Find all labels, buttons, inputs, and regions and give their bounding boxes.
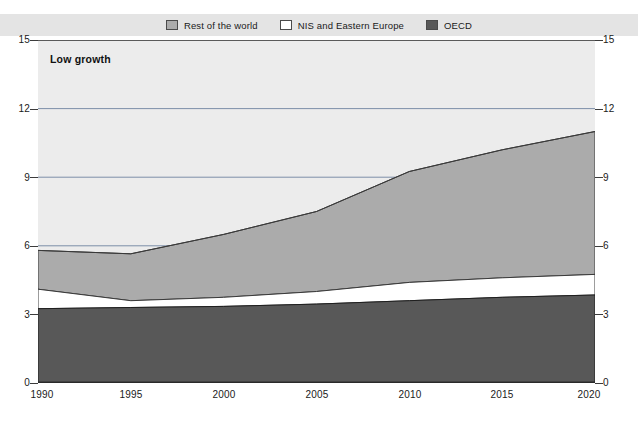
legend-item-rest-of-world[interactable]: Rest of the world: [166, 20, 258, 31]
xtick-label-2010: 2010: [398, 389, 421, 400]
ytick-mark-left-3: [30, 314, 38, 315]
ytick-mark-right-6: [595, 246, 603, 247]
ytick-mark-right-12: [595, 109, 603, 110]
ytick-label-left-15: 15: [8, 34, 30, 45]
ytick-label-right-15: 15: [603, 34, 629, 45]
ytick-mark-left-15: [30, 40, 38, 41]
stacked-area-svg: [38, 40, 595, 383]
chart-legend: Rest of the world NIS and Eastern Europe…: [0, 14, 638, 36]
ytick-mark-left-9: [30, 177, 38, 178]
ytick-mark-right-15: [595, 40, 603, 41]
ytick-label-right-12: 12: [603, 103, 629, 114]
ytick-label-right-0: 0: [603, 377, 629, 388]
legend-swatch-oecd: [426, 20, 438, 30]
xtick-label-1990: 1990: [30, 389, 53, 400]
legend-item-nis-eastern-europe[interactable]: NIS and Eastern Europe: [280, 20, 404, 31]
legend-label-rest-of-world: Rest of the world: [184, 20, 258, 31]
legend-item-oecd[interactable]: OECD: [426, 20, 472, 31]
ytick-mark-right-3: [595, 314, 603, 315]
ytick-mark-right-9: [595, 177, 603, 178]
xtick-label-2015: 2015: [490, 389, 513, 400]
legend-label-oecd: OECD: [444, 20, 472, 31]
ytick-label-right-9: 9: [603, 172, 629, 183]
low-growth-stacked-area-chart: Rest of the world NIS and Eastern Europe…: [0, 0, 638, 425]
ytick-mark-left-12: [30, 109, 38, 110]
legend-swatch-nis-eastern-europe: [280, 20, 292, 30]
ytick-label-right-3: 3: [603, 309, 629, 320]
xtick-label-2005: 2005: [305, 389, 328, 400]
plot-area: [38, 40, 595, 383]
xtick-label-2020: 2020: [577, 389, 600, 400]
ytick-label-left-6: 6: [8, 240, 30, 251]
ytick-label-left-3: 3: [8, 309, 30, 320]
ytick-mark-right-0: [595, 383, 603, 384]
ytick-label-left-0: 0: [8, 377, 30, 388]
legend-label-nis-eastern-europe: NIS and Eastern Europe: [298, 20, 404, 31]
ytick-label-right-6: 6: [603, 240, 629, 251]
xtick-label-2000: 2000: [212, 389, 235, 400]
ytick-mark-left-0: [30, 383, 38, 384]
area-oecd: [38, 295, 595, 383]
ytick-mark-left-6: [30, 246, 38, 247]
legend-swatch-rest-of-world: [166, 20, 178, 30]
ytick-label-left-9: 9: [8, 172, 30, 183]
xtick-label-1995: 1995: [119, 389, 142, 400]
ytick-label-left-12: 12: [8, 103, 30, 114]
plot-annotation-low-growth: Low growth: [50, 53, 111, 65]
